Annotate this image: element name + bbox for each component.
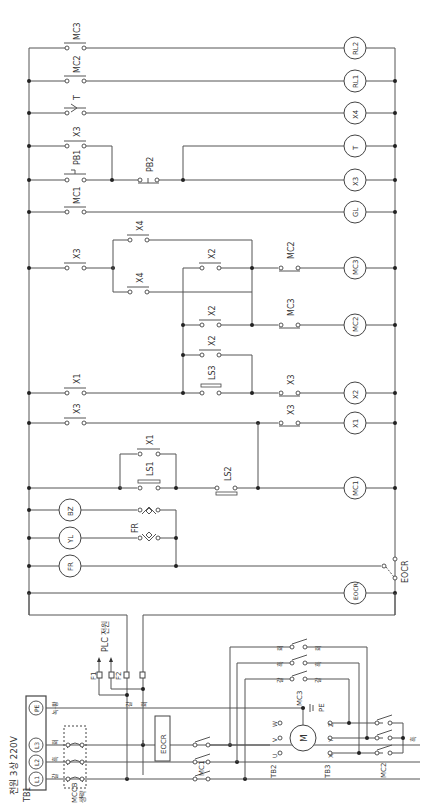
- coil-label-t: T: [352, 145, 360, 151]
- rung-x4: T X4: [27, 95, 397, 124]
- rung-rl1: MC2 RL1: [27, 55, 397, 92]
- svg-text:L2: L2: [33, 759, 40, 766]
- svg-text:회: 회: [51, 739, 59, 745]
- svg-text:L3: L3: [33, 742, 40, 749]
- svg-text:X: X: [327, 754, 334, 758]
- supply-title: 전원 3상 220V: [9, 735, 19, 795]
- rung-x2: X2 X1 LS3 X3 X2: [27, 335, 397, 404]
- contact-label-mc2: MC2: [73, 55, 82, 73]
- mc1-main: MC1: [193, 737, 210, 781]
- contact-label-ls3: LS3: [208, 365, 217, 380]
- contact-label-ls2: LS2: [224, 466, 233, 481]
- rung-bz: BZ: [27, 499, 176, 566]
- coil-label-yl: YL: [67, 535, 75, 544]
- contact-label-ls1: LS1: [146, 461, 155, 476]
- mccb-note: 생략: [78, 790, 87, 803]
- svg-text:Y: Y: [327, 738, 334, 743]
- coil-label-rl2: RL2: [352, 42, 360, 55]
- svg-text:갈: 갈: [314, 677, 321, 683]
- contact-label-t: T: [73, 95, 82, 101]
- svg-text:회: 회: [140, 701, 148, 707]
- rung-fr: FR EOCR: [27, 555, 410, 583]
- contact-label-pb1: PB1: [73, 150, 82, 165]
- contact-label-mc3: MC3: [73, 22, 82, 40]
- svg-text:L1: L1: [33, 776, 40, 783]
- svg-text:TB3: TB3: [324, 764, 332, 779]
- svg-text:갈: 갈: [51, 773, 58, 779]
- contact-label-mc1: MC1: [73, 186, 82, 204]
- eocr-label: EOCR: [160, 734, 168, 754]
- coil-label-mc1: MC1: [352, 481, 360, 496]
- contact-label-x1: X1: [73, 373, 82, 384]
- contact-label-x2-mc2: X2: [208, 305, 217, 316]
- contact-label-x2-mc3: X2: [208, 248, 217, 259]
- svg-text:MC2: MC2: [380, 763, 388, 778]
- svg-text:F2: F2: [115, 672, 123, 680]
- svg-text:MC3: MC3: [296, 691, 304, 706]
- contact-label-x3-mc3: X3: [73, 248, 82, 259]
- svg-text:흑: 흑: [314, 661, 322, 667]
- coil-label-mc2: MC2: [352, 317, 360, 332]
- svg-text:흑: 흑: [409, 736, 417, 742]
- tb1-label: TB1: [23, 787, 32, 803]
- rung-eocr: EOCR: [27, 582, 397, 604]
- control-ladder: MC3 RL2 MC2 RL1 T X4: [27, 22, 410, 775]
- mccb-label: MCCB: [71, 782, 79, 803]
- contact-label-x4-a: X4: [136, 220, 145, 231]
- svg-text:회: 회: [314, 645, 322, 651]
- coil-label-bz: BZ: [67, 506, 75, 516]
- svg-text:W: W: [271, 721, 278, 727]
- svg-text:F1: F1: [90, 672, 98, 680]
- rung-x1: X3 X3 X1: [27, 403, 397, 488]
- coil-label-gl: GL: [352, 208, 360, 217]
- rung-yl: YL FR: [27, 522, 178, 549]
- contact-label-pb2: PB2: [146, 157, 155, 172]
- plc-supply-label: PLC 전원: [100, 621, 110, 652]
- contact-label-x3-self: X3: [73, 126, 82, 137]
- coil-label-x3: X3: [352, 177, 360, 186]
- svg-text:회: 회: [276, 645, 284, 651]
- ladder-diagram: MC3 RL2 MC2 RL1 T X4: [0, 0, 431, 805]
- svg-text:TB2: TB2: [270, 764, 278, 779]
- coil-label-mc3: MC3: [352, 260, 360, 275]
- contact-label-eocr: EOCR: [401, 560, 410, 583]
- svg-text:PE: PE: [318, 703, 326, 712]
- power-circuit: 전원 3상 220V L1 L2 L3 PE TB1 갈 흑 회 녹-황 MCC…: [9, 621, 420, 803]
- contact-label-x1-self: X1: [146, 434, 155, 445]
- svg-text:U: U: [271, 754, 278, 758]
- rung-mc2: X2 MC3 MC2: [149, 292, 397, 336]
- rung-x3: PB1 PB2 X3: [27, 150, 397, 191]
- mc2-main: MC2: [375, 715, 392, 778]
- coil-label-rl1: RL1: [352, 75, 360, 88]
- contact-label-x3-nc-x2: X3: [287, 374, 296, 385]
- contact-label-x2-self: X2: [208, 335, 217, 346]
- svg-text:M: M: [299, 734, 309, 742]
- rung-t: X3 T: [27, 126, 397, 180]
- contact-label-mc2-nc: MC2: [287, 241, 296, 259]
- coil-label-x2: X2: [352, 390, 360, 399]
- svg-text:V: V: [271, 737, 278, 742]
- coil-label-fr: FR: [67, 562, 75, 571]
- contact-label-fr: FR: [131, 522, 140, 533]
- contact-label-x4-b: X4: [136, 272, 145, 283]
- coil-label-x1: X1: [352, 419, 360, 428]
- svg-text:갈: 갈: [125, 701, 132, 707]
- rung-rl2: MC3 RL2: [29, 22, 395, 59]
- rung-mc1: X1 LS1 LS2 MC1: [27, 434, 397, 499]
- rung-gl: MC1 GL: [27, 186, 397, 223]
- svg-text:흑: 흑: [276, 661, 284, 667]
- svg-text:흑: 흑: [51, 756, 59, 762]
- coil-label-x4: X4: [352, 109, 360, 119]
- svg-text:갈: 갈: [276, 677, 283, 683]
- contact-label-mc3-nc: MC3: [287, 298, 296, 316]
- coil-label-eocr: EOCR: [352, 583, 359, 600]
- contact-label-x3-x1: X3: [73, 403, 82, 414]
- mc3-main: MC3 회 흑 갈 회 흑 갈: [276, 639, 322, 706]
- svg-text:PE: PE: [33, 704, 40, 712]
- contact-label-x3-nc-x1: X3: [287, 404, 296, 415]
- svg-text:MC1: MC1: [198, 761, 206, 776]
